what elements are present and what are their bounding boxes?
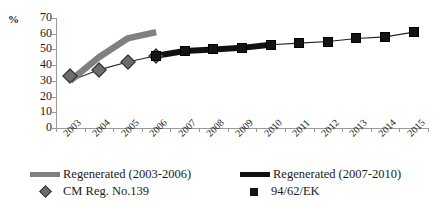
data-point-square	[237, 43, 247, 53]
chart-legend: Regenerated (2003-2006) CM Reg. No.139 R…	[0, 166, 436, 206]
gray-line-swatch-icon	[30, 172, 60, 177]
data-point-square	[208, 44, 218, 54]
legend-label: Regenerated (2007-2010)	[273, 167, 401, 182]
regenerated-2003-2006-line	[70, 32, 156, 81]
data-point-square	[380, 32, 390, 42]
black-line-swatch-icon	[240, 172, 270, 177]
data-point-square	[180, 46, 190, 56]
legend-item-94-62-ek: 94/62/EK	[240, 183, 401, 200]
legend-column-left: Regenerated (2003-2006) CM Reg. No.139	[30, 166, 191, 200]
legend-item-regenerated-2007-2010: Regenerated (2007-2010)	[240, 166, 401, 183]
gray-diamond-swatch-icon	[39, 185, 52, 198]
black-square-swatch-icon	[250, 188, 258, 196]
legend-label: CM Reg. No.139	[63, 184, 149, 199]
legend-label: 94/62/EK	[271, 184, 320, 199]
legend-column-right: Regenerated (2007-2010) 94/62/EK	[240, 166, 401, 200]
legend-item-regenerated-2003-2006: Regenerated (2003-2006)	[30, 166, 191, 183]
data-point-square	[266, 40, 276, 50]
data-point-square	[294, 38, 304, 48]
chart-container: % 706050403020100 2003200420052006200720…	[0, 0, 436, 208]
legend-label: Regenerated (2003-2006)	[63, 167, 191, 182]
data-point-square	[323, 37, 333, 47]
legend-item-cm-reg-139: CM Reg. No.139	[30, 183, 191, 200]
data-point-square	[151, 51, 161, 61]
data-point-square	[409, 27, 419, 37]
data-point-square	[351, 33, 361, 43]
